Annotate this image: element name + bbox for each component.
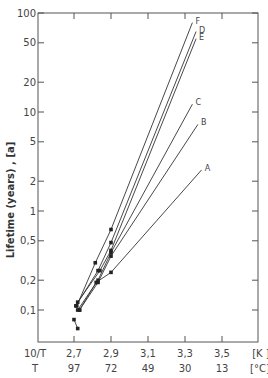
- x-tick-label: 3,5: [214, 348, 230, 359]
- y-tick-label: 5: [30, 136, 36, 147]
- series-line-A: [80, 170, 202, 310]
- y-tick-label: 1: [30, 206, 36, 217]
- series-label-C: C: [195, 98, 201, 107]
- x-tick-label: 2,9: [103, 348, 119, 359]
- data-point-marker: [109, 254, 113, 258]
- data-point-marker: [98, 269, 102, 273]
- x-tick-label: 3,1: [140, 348, 156, 359]
- data-point-marker: [74, 304, 78, 308]
- plot-frame: [38, 13, 258, 342]
- x-tick-label: 3,3: [177, 348, 193, 359]
- data-point-marker: [94, 281, 98, 285]
- y-axis-title: Lifetime (years) , [a]: [5, 142, 16, 259]
- x-tick-celsius-label: 97: [68, 363, 81, 374]
- y-tick-label: 20: [23, 77, 36, 88]
- data-point-marker: [76, 300, 80, 304]
- y-tick-label: 2: [30, 176, 36, 187]
- data-point-marker: [93, 261, 97, 265]
- x-tick-celsius-label: 30: [179, 363, 192, 374]
- series-lines: [72, 23, 201, 331]
- data-point-marker: [78, 308, 82, 312]
- series-line-D: [76, 32, 196, 306]
- data-point-marker: [76, 327, 80, 331]
- y-tick-label: 50: [23, 37, 36, 48]
- x-axis-label-temp: T: [31, 363, 39, 374]
- series-line-C: [78, 104, 193, 310]
- x-unit-kelvin: [K ]: [252, 348, 268, 359]
- data-point-marker: [109, 241, 113, 245]
- y-tick-label: 10: [23, 107, 36, 118]
- series-label-B: B: [201, 118, 207, 127]
- data-point-marker: [109, 228, 113, 232]
- series-label-E: E: [199, 33, 204, 42]
- series-label-F: F: [195, 17, 200, 26]
- y-tick-label: 0,2: [20, 275, 36, 286]
- x-tick-celsius-label: 49: [142, 363, 155, 374]
- x-axis-label-inverse-temp: 10/T: [24, 348, 47, 359]
- x-tick-label: 2,7: [66, 348, 82, 359]
- axes: [38, 13, 258, 342]
- y-tick-label: 100: [17, 8, 36, 19]
- y-tick-label: 0,1: [20, 305, 36, 316]
- y-tick-label: 0,5: [20, 235, 36, 246]
- x-tick-celsius-label: 72: [105, 363, 118, 374]
- x-tick-celsius-label: 13: [216, 363, 229, 374]
- tick-labels: 2,7972,9723,1493,3303,51310/TT[K ][°C]10…: [5, 8, 268, 375]
- lifetime-chart: 2,7972,9723,1493,3303,51310/TT[K ][°C]10…: [0, 0, 268, 378]
- data-point-marker: [109, 271, 113, 275]
- series-label-A: A: [205, 164, 211, 173]
- x-unit-celsius: [°C]: [250, 363, 268, 374]
- data-point-marker: [72, 318, 76, 322]
